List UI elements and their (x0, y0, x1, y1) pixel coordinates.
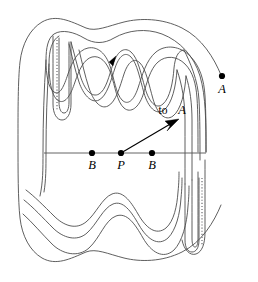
bottom-wave-1 (26, 172, 179, 231)
point-dot-b-right (149, 150, 155, 156)
bottom-wave-band-group (23, 172, 189, 254)
arrow-annotation-prefix: to (159, 104, 168, 116)
right-bundle-1 (186, 76, 192, 180)
point-dot-a (219, 73, 225, 79)
figure-canvas: A B P B to A (0, 0, 258, 282)
top-wave-band-group (69, 42, 186, 118)
label-point-a: A (217, 82, 226, 96)
outer-boundary-group (18, 18, 221, 261)
right-bundle-2 (177, 70, 185, 184)
outer-boundary-curve (18, 18, 221, 261)
arrow-to-a-head-icon (165, 119, 179, 131)
bottom-wave-3 (23, 186, 189, 254)
tangent-arrowhead-icon (109, 56, 116, 66)
top-wave-3 (79, 50, 186, 118)
right-finger-2 (192, 172, 198, 247)
topology-figure: A B P B to A (0, 0, 258, 282)
arrow-to-a-shaft (121, 123, 172, 153)
top-wave-1 (71, 42, 184, 106)
label-point-b-left: B (88, 158, 96, 172)
arrow-annotation-target: A (177, 103, 186, 117)
point-dot-b-left (89, 150, 95, 156)
right-bundle-group (177, 50, 200, 184)
label-point-b-right: B (148, 158, 156, 172)
left-spine-group (40, 60, 49, 196)
left-fingers-group (53, 36, 71, 120)
arrow-to-a-group (121, 119, 179, 153)
label-point-p: P (116, 158, 125, 172)
point-dot-p (118, 150, 124, 156)
direction-marker-group (109, 56, 116, 66)
